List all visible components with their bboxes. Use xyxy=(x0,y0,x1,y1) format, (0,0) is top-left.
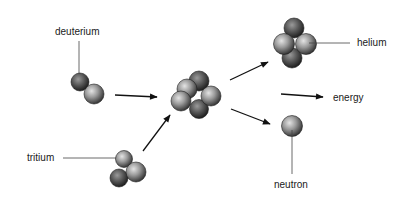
arrow-to-neutron xyxy=(231,109,270,124)
arrow-deuterium-to-intermediate xyxy=(115,95,157,97)
energy-label: energy xyxy=(333,92,364,103)
neutron-group: neutron xyxy=(274,116,308,191)
neutron-label: neutron xyxy=(274,179,308,190)
helium-label: helium xyxy=(357,37,386,48)
arrow-tritium-to-intermediate xyxy=(143,115,170,151)
deuterium-nucleus-icon xyxy=(71,73,104,104)
tritium-group: tritium xyxy=(27,151,146,188)
intermediate-nucleus-icon xyxy=(171,71,221,119)
tritium-nucleus-icon xyxy=(110,151,146,188)
tritium-label: tritium xyxy=(27,152,54,163)
deuterium-group: deuterium xyxy=(55,26,104,104)
fusion-diagram: deuterium tritium xyxy=(0,0,410,200)
helium-group: helium xyxy=(274,18,387,68)
arrow-to-energy xyxy=(281,94,323,97)
deuterium-label: deuterium xyxy=(55,26,99,37)
arrow-to-helium xyxy=(230,62,268,80)
